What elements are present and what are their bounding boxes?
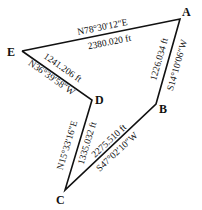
vertex-label-e: E <box>7 45 15 59</box>
traverse-diagram: A B C D E N78°30′12″E 2380.020 ft 1226.0… <box>0 0 202 210</box>
vertex-label-b: B <box>159 102 167 116</box>
vertex-label-d: D <box>95 93 104 107</box>
edge-ab-bearing: S14°10′06″W <box>165 38 189 91</box>
edge-ea-distance: 2380.020 ft <box>87 33 132 52</box>
vertex-label-a: A <box>182 5 191 19</box>
vertex-label-c: C <box>56 193 65 207</box>
edge-ab-distance: 1226.034 ft <box>148 36 170 81</box>
